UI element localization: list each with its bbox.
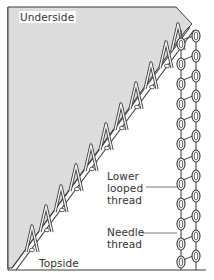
underside-label: Underside (19, 11, 76, 23)
needle-thread-line-2: thread (107, 238, 144, 250)
lower-looped-thread-line-3: thread (107, 194, 143, 206)
topside-label: Topside (39, 257, 79, 269)
lower-looped-thread-label: Lower looped thread (107, 170, 143, 206)
lower-looped-thread-line-1: Lower (107, 170, 143, 182)
needle-thread-line-1: Needle (107, 226, 144, 238)
needle-thread-label: Needle thread (107, 226, 144, 250)
looped-thread-chain (177, 30, 200, 270)
lower-looped-thread-line-2: looped (107, 182, 143, 194)
